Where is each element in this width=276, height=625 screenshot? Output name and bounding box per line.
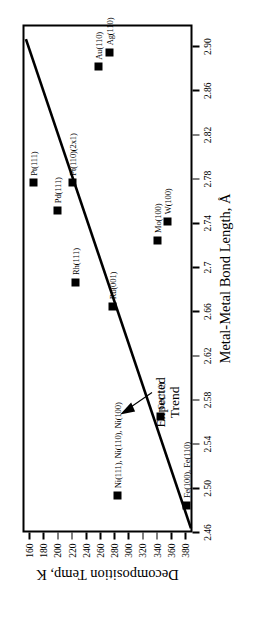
data-point-label: Pt(110)(2x1) [67,133,77,175]
x-axis-tick-label: 2.74 [202,214,212,231]
y-axis-tick [28,532,30,539]
y-axis-tick-label: 320 [137,543,147,557]
x-axis-tick [192,266,199,268]
x-axis-tick-label: 2.62 [202,347,212,364]
chart-figure: Pt(111)Pd(111)Pt(110)(2x1)Au(110)Ag(110)… [0,0,276,625]
data-point-marker [105,48,113,56]
x-axis-tick [192,443,199,445]
x-axis-tick-label: 2.66 [202,303,212,320]
plot-area: Pt(111)Pd(111)Pt(110)(2x1)Au(110)Ag(110)… [22,24,192,532]
x-axis-tick-label: 2.50 [202,480,212,497]
data-point-label: Pd(111) [52,177,62,203]
y-axis-title: Decomposition Temp, K [36,566,179,583]
x-axis-tick [192,178,199,180]
y-axis-tick [57,532,59,539]
y-axis-tick [127,532,129,539]
y-axis-tick-label: 380 [180,543,190,557]
x-axis-tick-label: 2.7 [202,261,212,273]
y-axis-tick-label: 340 [152,543,162,557]
data-point-marker [108,302,116,310]
data-point-marker [94,62,102,70]
x-axis-tick-label: 2.90 [202,38,212,55]
data-point-marker [163,217,171,225]
data-point-marker [113,491,121,499]
y-axis-tick-label: 300 [123,543,133,557]
y-axis-tick-label: 220 [67,543,77,557]
y-axis-tick [85,532,87,539]
rotated-chart-canvas: Pt(111)Pd(111)Pt(110)(2x1)Au(110)Ag(110)… [0,0,276,625]
data-point-marker [53,206,61,214]
y-axis-tick [184,532,186,539]
x-axis-tick-label: 2.86 [202,82,212,99]
y-axis-tick-label: 160 [24,543,34,557]
y-axis-tick [99,532,101,539]
data-point-label: W(100) [162,188,172,214]
y-axis-tick [42,532,44,539]
y-axis-tick-label: 280 [109,543,119,557]
x-axis-tick [192,222,199,224]
y-axis-tick [71,532,73,539]
data-point-marker [29,178,37,186]
x-axis-tick [192,355,199,357]
x-axis-tick [192,45,199,47]
data-point-label: Fe(100), Fe(110) [181,441,191,497]
x-axis-tick [192,134,199,136]
y-axis-tick-label: 200 [52,543,62,557]
data-point-marker [153,236,161,244]
data-point-marker [68,178,76,186]
data-point-label: Au(110) [93,31,103,59]
y-axis-tick [113,532,115,539]
y-axis-tick-label: 260 [95,543,105,557]
x-axis-tick-label: 2.78 [202,170,212,187]
y-axis-tick-label: 240 [81,543,91,557]
x-axis-tick-label: 2.82 [202,126,212,143]
x-axis-tick [192,399,199,401]
expected-trend-label: ExpectedTrend [153,377,181,427]
x-axis-tick [192,310,199,312]
data-point-marker [182,501,190,509]
data-point-label: Pt(111) [28,151,38,175]
data-point-label: Ru(001) [107,271,117,299]
x-axis-title: Metal-Metal Bond Length, Å [216,193,233,363]
data-point-label: Ni(111), Ni(110), Ni(100) [112,402,122,488]
y-axis-tick [156,532,158,539]
data-point-label: Mo(100) [152,203,162,233]
y-axis-tick-label: 360 [166,543,176,557]
data-point-label: Ag(110) [104,17,114,45]
x-axis-tick [192,487,199,489]
x-axis-tick [192,89,199,91]
y-axis-tick [142,532,144,539]
data-point-marker [71,278,79,286]
y-axis-tick-label: 180 [38,543,48,557]
x-axis-tick-label: 2.46 [202,524,212,541]
data-point-label: Rh(111) [70,248,80,275]
x-axis-tick-label: 2.58 [202,391,212,408]
y-axis-tick [170,532,172,539]
x-axis-tick [192,531,199,533]
x-axis-tick-label: 2.54 [202,435,212,452]
